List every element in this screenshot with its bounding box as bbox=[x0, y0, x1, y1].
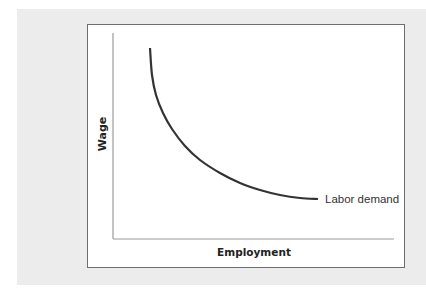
plot-area bbox=[0, 0, 426, 291]
y-axis-label: Wage bbox=[96, 117, 109, 152]
labor-demand-curve bbox=[150, 48, 318, 199]
curve-annotation: Labor demand bbox=[325, 193, 399, 205]
x-axis-label: Employment bbox=[217, 246, 291, 258]
